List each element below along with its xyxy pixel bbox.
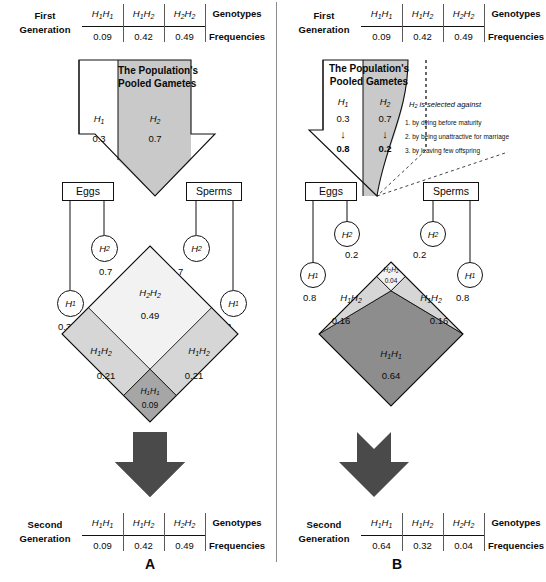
table-header-row: H1H1 H1H2 H2H2 Genotypes [82,513,269,535]
frequency-h1h1: 0.09 [82,536,123,555]
panel-b-selection: First Generation H1H1 H1H2 H2H2 Genotype… [273,0,546,582]
panel-letter-b: B [392,556,402,572]
table-value-row: 0.64 0.32 0.04 Frequencies [361,536,546,555]
frequency-h1h2: 0.42 [123,536,164,555]
row-label-genotypes: Genotypes [484,513,546,535]
second-generation-label-b: Second Generation [287,513,361,545]
table-divider [443,513,444,551]
table-divider [402,513,403,551]
table-divider [205,513,206,551]
panel-a-hardy-weinberg: First Generation H1H1 H1H2 H2H2 Genotype… [0,0,273,582]
genotype-header-h1h1: H1H1 [361,513,402,535]
table-divider [164,513,165,551]
table-divider [123,513,124,551]
table-divider [484,513,485,551]
frequency-h2h2: 0.04 [443,536,484,555]
row-label-frequencies: Frequencies [205,536,269,555]
frequency-h1h2: 0.32 [402,536,443,555]
genotype-header-h1h2: H1H2 [123,513,164,535]
frequency-h2h2: 0.49 [164,536,205,555]
panel-letter-a: A [145,556,155,572]
frequency-h1h1: 0.64 [361,536,402,555]
table-header-row: H1H1 H1H2 H2H2 Genotypes [361,513,546,535]
second-generation-grid-a: H1H1 H1H2 H2H2 Genotypes 0.09 0.42 0.49 … [82,513,269,555]
second-generation-label-a: Second Generation [8,513,82,545]
generation-arrow-a [0,0,273,582]
second-generation-table-b: Second Generation H1H1 H1H2 H2H2 Genotyp… [287,513,546,555]
row-label-frequencies: Frequencies [484,536,546,555]
genotype-header-h2h2: H2H2 [164,513,205,535]
table-value-row: 0.09 0.42 0.49 Frequencies [82,536,269,555]
second-generation-table-a: Second Generation H1H1 H1H2 H2H2 Genotyp… [8,513,269,555]
genotype-header-h1h1: H1H1 [82,513,123,535]
genotype-header-h1h2: H1H2 [402,513,443,535]
row-label-genotypes: Genotypes [205,513,269,535]
generation-arrow-b [273,0,546,582]
second-generation-grid-b: H1H1 H1H2 H2H2 Genotypes 0.64 0.32 0.04 … [361,513,546,555]
genotype-header-h2h2: H2H2 [443,513,484,535]
